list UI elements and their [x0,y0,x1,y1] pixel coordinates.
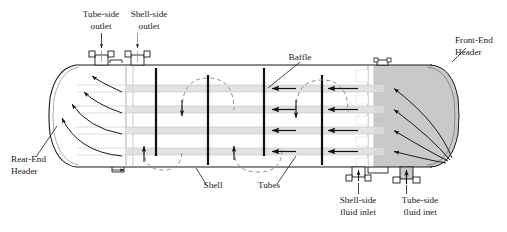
label-tube-side-fluid-inlet-line2: fluid inet [403,207,437,217]
label-shell-side-outlet-line2: outlet [139,21,160,31]
label-baffle-line1: Baffle [289,52,312,62]
label-shell-line1: Shell [204,180,223,190]
label-front-end-header-line1: Front-End [455,35,493,45]
label-shell: Shell [204,180,223,190]
label-rear-end-header-line2: Header [11,166,38,176]
label-shell-side-fluid-inlet-line2: fluid inlet [340,207,376,217]
label-tube-side-outlet-line1: Tube-side [83,9,119,19]
label-shell-side-outlet-line1: Shell-side [131,9,168,19]
label-tubes: Tubes [258,180,281,190]
label-front-end-header-line2: Header [455,47,482,57]
label-tubes-line1: Tubes [258,180,281,190]
label-tube-side-outlet-line2: outlet [91,21,112,31]
label-shell-side-fluid-inlet-line1: Shell-side [340,195,377,205]
front-end-header-body [374,65,459,167]
heat-exchanger-diagram: Tube-side outlet Shell-side outlet Baffl… [0,0,507,232]
label-baffle: Baffle [289,52,312,62]
diagram-canvas: Tube-side outlet Shell-side outlet Baffl… [0,0,507,232]
label-rear-end-header-line1: Rear-End [11,154,46,164]
label-tube-side-fluid-inlet-line1: Tube-side [402,195,438,205]
